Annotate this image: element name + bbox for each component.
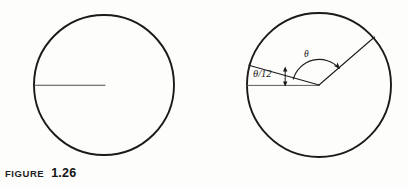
figure-drawing [0, 0, 407, 187]
figure-caption-word: FIGURE [5, 168, 44, 179]
theta-label: θ [304, 50, 309, 60]
figure-container: θ/12 θ FIGURE 1.26 [0, 0, 407, 187]
figure-caption: FIGURE 1.26 [5, 166, 76, 180]
theta-angle-arc [293, 59, 339, 79]
figure-caption-number: 1.26 [51, 166, 76, 180]
left-circle-group [34, 15, 174, 155]
theta-over-twelve-label: θ/12 [253, 69, 272, 80]
right-circle-group [247, 13, 391, 157]
